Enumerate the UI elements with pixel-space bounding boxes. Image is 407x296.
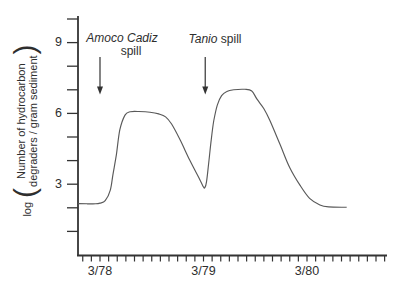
y-axis-label: log ( Number of hydrocarbon degraders / … [7, 38, 47, 222]
annotation-amoco-cadiz-spill-word: spill [90, 45, 172, 58]
hydrocarbon-degraders-chart: log ( Number of hydrocarbon degraders / … [0, 0, 407, 296]
y-tick-label-6: 6 [40, 106, 62, 120]
x-tick-label-3-78: 3/78 [78, 264, 122, 278]
y-axis-label-log: log [21, 202, 33, 217]
y-tick-label-3: 3 [40, 177, 62, 191]
annotation-amoco-cadiz-spill: Amoco Cadiz spill [72, 32, 172, 57]
annotation-tanio-spill-word: spill [221, 32, 242, 46]
annotation-tanio-name: Tanio [189, 32, 218, 46]
y-axis-label-lines: Number of hydrocarbon degraders / gram s… [15, 55, 40, 186]
arrow-head-tanio [202, 87, 208, 95]
data-curve [78, 89, 347, 207]
arrow-head-amoco [97, 87, 103, 95]
y-axis-label-line2: degraders / gram sediment [27, 55, 40, 186]
x-tick-label-3-79: 3/79 [182, 264, 226, 278]
y-axis-label-line1: Number of hydrocarbon [15, 55, 28, 186]
y-axis-label-open-paren: ( [10, 188, 40, 198]
y-tick-label-9: 9 [40, 35, 62, 49]
y-axis-label-close-paren: ) [10, 44, 40, 54]
annotation-tanio-spill: Tanio spill [165, 33, 265, 46]
annotation-amoco-cadiz-name: Amoco Cadiz [86, 31, 157, 45]
x-tick-label-3-80: 3/80 [285, 264, 329, 278]
